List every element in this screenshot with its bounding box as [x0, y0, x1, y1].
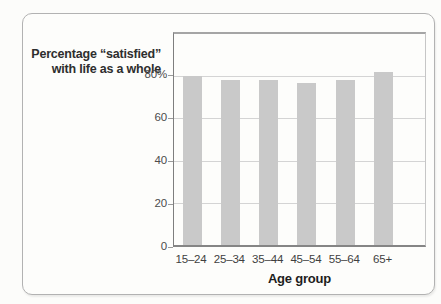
y-tick-label-40: 40 [127, 154, 167, 166]
bar-45–54 [297, 83, 316, 245]
x-tick-label-25–34: 25–34 [209, 253, 249, 265]
x-tick-label-35–44: 35–44 [248, 253, 288, 265]
y-tick-mark-0 [168, 247, 173, 248]
x-tick-label-15–24: 15–24 [171, 253, 211, 265]
bar-65+ [374, 72, 393, 245]
y-tick-mark-80 [168, 75, 173, 76]
y-axis: 80%6040200 [127, 14, 167, 264]
x-tick-label-65+: 65+ [363, 253, 403, 265]
y-tick-label-80: 80% [127, 68, 167, 80]
x-tick-label-55–64: 55–64 [324, 253, 364, 265]
plot-area [173, 32, 426, 247]
chart-card: Percentage “satisfied” with life as a wh… [22, 13, 435, 295]
y-tick-mark-40 [168, 161, 173, 162]
bar-25–34 [221, 80, 240, 245]
bar-35–44 [259, 80, 278, 245]
x-axis-title: Age group [173, 271, 426, 286]
bar-15–24 [183, 76, 202, 245]
y-tick-mark-60 [168, 118, 173, 119]
figure: Percentage “satisfied” with life as a wh… [0, 0, 441, 304]
y-tick-mark-20 [168, 204, 173, 205]
y-tick-label-0: 0 [127, 240, 167, 252]
x-tick-label-45–54: 45–54 [286, 253, 326, 265]
x-axis: 15–2425–3435–4445–5455–6465+ [173, 253, 426, 268]
bar-55–64 [336, 80, 355, 245]
y-tick-label-20: 20 [127, 197, 167, 209]
y-tick-label-60: 60 [127, 111, 167, 123]
